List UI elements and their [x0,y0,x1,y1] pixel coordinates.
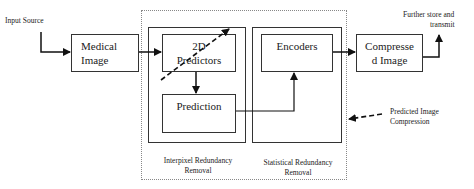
further-store-label-line2: transmit [430,20,455,29]
annotation-label-line1: Predicted Image [390,107,439,116]
statistical-label-line1: Statistical Redundancy [258,158,338,167]
output-arrow [423,35,439,57]
dashed-diagonal-arrow [161,29,229,80]
interpixel-label-line1: Interpixel Redundancy [150,156,246,165]
prediction-to-encoders-arrow [236,73,294,111]
further-store-label-line1: Further store and [403,10,454,19]
input-arrow [41,32,70,52]
interpixel-label-line2: Removal [150,166,246,175]
annotation-label-line2: Compression [390,117,430,126]
annotation-dashed-arrow [349,114,382,119]
statistical-label-line2: Removal [258,168,338,177]
input-source-label: Input Source [5,16,44,25]
